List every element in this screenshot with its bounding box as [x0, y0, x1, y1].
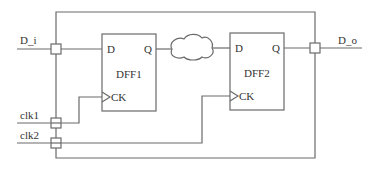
d-o-label: D_o: [338, 34, 357, 46]
d-o-port-box: [310, 43, 320, 53]
dff2-ck-pin: CK: [239, 90, 254, 102]
dff1-name: DFF1: [116, 68, 142, 80]
clk1-label: clk1: [20, 109, 39, 121]
dff1-q-pin: Q: [144, 43, 152, 55]
dff1-block: D Q DFF1 CK: [102, 34, 156, 111]
dff2-name: DFF2: [244, 67, 270, 79]
dff1-d-pin: D: [107, 43, 115, 55]
dff2-q-pin: Q: [272, 42, 280, 54]
circuit-diagram: D_i clk1 clk2 D Q DFF1 CK D Q DFF2 CK D_…: [0, 0, 372, 169]
dff2-d-pin: D: [235, 42, 243, 54]
d-i-label: D_i: [20, 34, 37, 46]
clk2-label: clk2: [20, 129, 39, 141]
d-i-port-box: [51, 44, 61, 54]
cloud-icon: [171, 34, 213, 60]
dff2-block: D Q DFF2 CK: [230, 33, 284, 110]
dff1-ck-pin: CK: [111, 91, 126, 103]
